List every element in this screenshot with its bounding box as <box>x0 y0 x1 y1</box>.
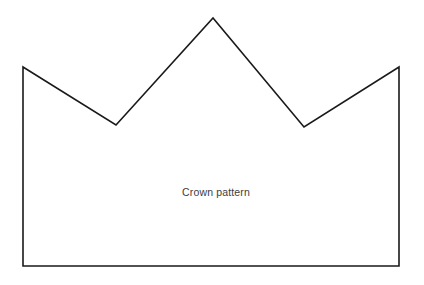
crown-outline-shape <box>23 18 399 266</box>
crown-pattern-drawing <box>0 0 424 285</box>
pattern-label: Crown pattern <box>4 186 424 198</box>
pattern-canvas: Crown pattern <box>0 0 424 285</box>
